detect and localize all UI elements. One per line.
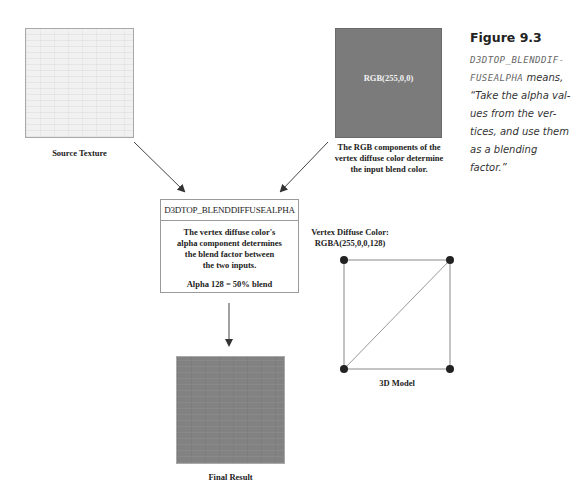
alpha-note: Alpha 128 = 50% blend bbox=[161, 279, 298, 289]
model-caption: 3D Model bbox=[344, 378, 450, 389]
source-texture-caption: Source Texture bbox=[20, 148, 139, 159]
diffuse-color-texture bbox=[335, 28, 442, 138]
vertex-dot bbox=[340, 365, 348, 373]
arrow-source-to-blend bbox=[134, 142, 184, 191]
diffuse-color-caption: The RGB components of the vertex diffuse… bbox=[318, 142, 460, 175]
source-texture bbox=[25, 28, 134, 138]
blend-operation-title: D3DTOP_BLENDDIFFUSEALPHA bbox=[161, 200, 298, 221]
vertex-dot bbox=[340, 256, 348, 264]
diffuse-color-label: RGB(255,0,0) bbox=[335, 73, 442, 83]
final-result-texture bbox=[176, 356, 285, 464]
vertex-dot bbox=[446, 256, 454, 264]
blend-operation-description: The vertex diffuse color's alpha compone… bbox=[161, 221, 298, 271]
vertex-color-label: Vertex Diffuse Color: RGBA(255,0,0,128) bbox=[300, 227, 400, 249]
vertex-dot bbox=[446, 365, 454, 373]
figure-description: D3DTOP_BLENDDIF- FUSEALPHA means, “Take … bbox=[470, 51, 586, 177]
blend-operation-box: D3DTOP_BLENDDIFFUSEALPHA The vertex diff… bbox=[160, 199, 299, 293]
figure-caption-sidebar: Figure 9.3 D3DTOP_BLENDDIF- FUSEALPHA me… bbox=[470, 30, 586, 177]
model-quad bbox=[340, 256, 454, 373]
final-result-caption: Final Result bbox=[170, 472, 291, 483]
figure-title: Figure 9.3 bbox=[470, 30, 586, 45]
